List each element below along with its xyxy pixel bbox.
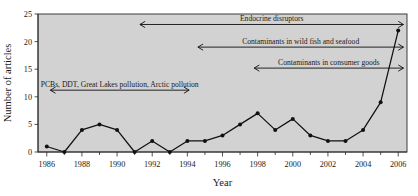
data-point <box>396 29 400 33</box>
data-point <box>185 139 189 143</box>
data-point <box>308 133 312 137</box>
chart-figure: 0510152025 19861988199019921994199619982… <box>0 0 418 196</box>
x-tick-label: 1988 <box>74 160 90 169</box>
data-point <box>344 139 348 143</box>
data-point <box>221 133 225 137</box>
data-point <box>62 150 66 154</box>
data-point <box>168 150 172 154</box>
data-point <box>80 128 84 132</box>
y-axis-title: Number of articles <box>2 44 13 123</box>
line-chart-svg: 0510152025 19861988199019921994199619982… <box>0 0 418 196</box>
y-tick-label: 20 <box>24 38 32 47</box>
data-point <box>133 150 137 154</box>
data-point <box>98 122 102 126</box>
data-point <box>150 139 154 143</box>
data-point <box>238 122 242 126</box>
y-tick-label: 25 <box>24 10 32 19</box>
data-point <box>361 128 365 132</box>
x-tick-label: 2006 <box>390 160 406 169</box>
x-tick-label: 1998 <box>249 160 265 169</box>
x-axis-title: Year <box>213 177 233 188</box>
x-tick-label: 1996 <box>214 160 230 169</box>
data-point <box>273 128 277 132</box>
data-point <box>326 139 330 143</box>
data-point <box>45 144 49 148</box>
x-tick-label: 2002 <box>320 160 336 169</box>
annotation-label: Contaminants in consumer goods <box>278 58 379 67</box>
y-tick-label: 15 <box>24 65 32 74</box>
x-tick-label: 1994 <box>179 160 195 169</box>
data-point <box>115 128 119 132</box>
data-point <box>379 100 383 104</box>
y-tick-label: 0 <box>28 148 32 157</box>
y-tick-label: 5 <box>28 120 32 129</box>
x-tick-label: 2000 <box>285 160 301 169</box>
x-tick-label: 2004 <box>355 160 371 169</box>
x-tick-label: 1992 <box>144 160 160 169</box>
annotation-label: PCBs, DDT, Great Lakes pollution, Arctic… <box>41 80 199 89</box>
x-tick-label: 1990 <box>109 160 125 169</box>
annotation-label: Contaminants in wild fish and seafood <box>242 37 359 46</box>
data-point <box>291 117 295 121</box>
data-point <box>203 139 207 143</box>
x-tick-label: 1986 <box>39 160 55 169</box>
data-point <box>256 111 260 115</box>
annotation-label: Endocrine disruptors <box>240 14 304 23</box>
y-tick-label: 10 <box>24 93 32 102</box>
